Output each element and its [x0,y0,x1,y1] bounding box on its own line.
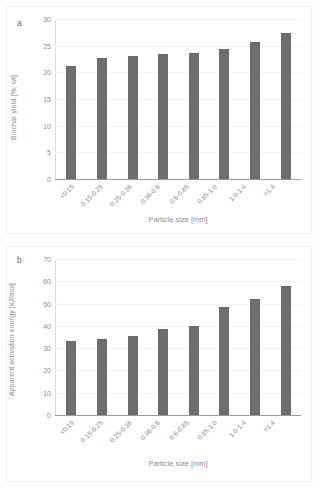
bar [219,307,229,415]
bar-slot [87,19,118,179]
bar-slot [87,259,118,415]
x-tick-slot: <0.15 [56,181,85,215]
chart-a: 302520151050 <0.150.15-0.250.25-0.360.36… [7,7,311,233]
y-tick-label-b: 0 [47,412,51,419]
x-tick-label: 0.85-1.0 [196,419,218,441]
y-tick-label-b: 60 [43,278,51,285]
bar-slot [240,19,271,179]
y-tick-label-a: 15 [43,96,51,103]
y-tick-label-a: 5 [47,149,51,156]
x-axis-title-b: Particle size [mm] [55,459,301,468]
bar [250,42,260,179]
x-tick-slot: 0.15-0.25 [85,417,114,451]
bar [66,66,76,179]
bar-slot [179,19,210,179]
chart-b: 706050403020100 <0.150.15-0.250.25-0.360… [7,247,311,481]
x-tick-label: 0.6-0.85 [168,183,190,205]
x-tick-slot: 0.36-0.6 [142,417,171,451]
bar-slot [179,259,210,415]
bar-slot [56,259,87,415]
x-tick-slot: <0.15 [56,417,85,451]
x-axis-ticks-b: <0.150.15-0.250.25-0.360.36-0.60.6-0.850… [56,417,285,451]
x-tick-slot: >1.4 [256,181,285,215]
x-tick-label: 1.0-1.4 [228,419,247,438]
chart-panel-b: b Apparent activation energy [kJ/mol] 70… [6,246,312,482]
x-axis-ticks-a: <0.150.15-0.250.25-0.360.36-0.60.6-0.850… [56,181,285,215]
bar-slot [270,19,301,179]
bar-slot [117,19,148,179]
x-tick-label: >1.4 [261,419,275,433]
y-tick-label-a: 30 [43,16,51,23]
bar-slot [240,259,271,415]
x-tick-label: >1.4 [261,183,275,197]
bar-slot [270,259,301,415]
y-tick-label-a: 25 [43,42,51,49]
plot-area-a: 302520151050 [55,19,301,179]
bar-slot [117,259,148,415]
x-tick-slot: 0.36-0.6 [142,181,171,215]
x-tick-slot: 0.25-0.36 [113,417,142,451]
x-tick-label: 1.0-1.4 [228,183,247,202]
bar [158,329,168,415]
x-tick-slot: >1.4 [256,417,285,451]
x-tick-slot: 0.85-1.0 [199,181,228,215]
x-tick-slot: 0.25-0.36 [113,181,142,215]
bar-slot [56,19,87,179]
y-tick-label-a: 10 [43,122,51,129]
x-axis-baseline-a: 0 [55,179,301,180]
bar [128,56,138,179]
x-tick-label: 0.85-1.0 [196,183,218,205]
x-tick-slot: 0.15-0.25 [85,181,114,215]
x-tick-slot: 0.6-0.85 [171,417,200,451]
chart-panel-a: a Biochar yield [%, wt] 302520151050 <0.… [6,6,312,234]
x-tick-label: 0.6-0.85 [168,419,190,441]
x-tick-slot: 1.0-1.4 [228,417,257,451]
y-tick-label-b: 70 [43,256,51,263]
bar [97,58,107,179]
bar [128,336,138,415]
bar [219,49,229,179]
y-tick-label-b: 20 [43,367,51,374]
bar [97,339,107,415]
bar-slot [209,19,240,179]
y-tick-label-a: 0 [47,176,51,183]
bar [281,286,291,415]
x-tick-label: 0.36-0.6 [139,183,161,205]
x-tick-slot: 1.0-1.4 [228,181,257,215]
bar [250,299,260,415]
bar [66,341,76,415]
x-tick-label: <0.15 [59,183,76,200]
bar [281,33,291,179]
x-tick-slot: 0.6-0.85 [171,181,200,215]
bar-series-a [56,19,301,179]
x-tick-label: <0.15 [59,419,76,436]
y-tick-label-b: 40 [43,322,51,329]
figure-page: a Biochar yield [%, wt] 302520151050 <0.… [0,0,320,488]
bar-slot [209,259,240,415]
bar [158,54,168,179]
y-tick-label-b: 50 [43,300,51,307]
bar-series-b [56,259,301,415]
x-axis-title-a: Particle size [mm] [55,215,301,224]
y-tick-label-b: 30 [43,345,51,352]
bar [189,53,199,179]
x-tick-slot: 0.85-1.0 [199,417,228,451]
y-tick-label-b: 10 [43,389,51,396]
x-tick-label: 0.36-0.6 [139,419,161,441]
bar-slot [148,259,179,415]
x-axis-baseline-b: 0 [55,415,301,416]
y-tick-label-a: 20 [43,69,51,76]
bar-slot [148,19,179,179]
plot-area-b: 706050403020100 [55,259,301,415]
bar [189,326,199,415]
